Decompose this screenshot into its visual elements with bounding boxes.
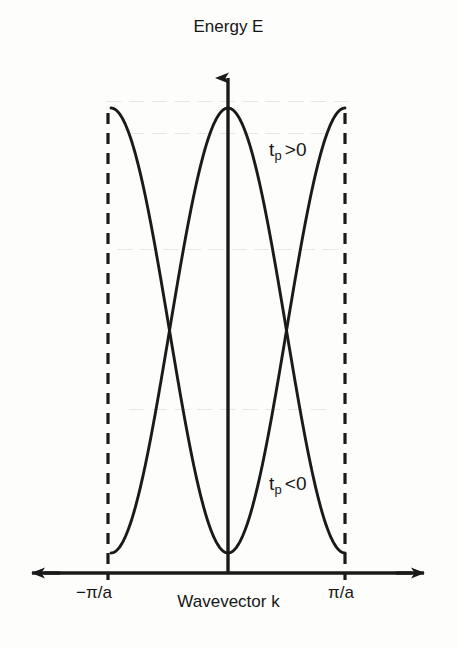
annotation-lower-relation: <0 bbox=[285, 473, 307, 494]
x-tick-label-pi-over-a: π/a bbox=[328, 583, 354, 603]
x-axis-title: Wavevector k bbox=[0, 592, 457, 612]
annotation-upper-relation: >0 bbox=[285, 139, 307, 160]
x-tick-label-negative-pi-over-a: −π/a bbox=[76, 583, 112, 603]
plot-canvas bbox=[0, 0, 457, 648]
annotation-upper-band: tp>0 bbox=[269, 139, 307, 163]
annotation-lower-band: tp<0 bbox=[269, 473, 307, 497]
y-axis-title: Energy E bbox=[0, 17, 457, 37]
annotation-upper-subscript: p bbox=[275, 148, 282, 163]
annotation-lower-subscript: p bbox=[275, 482, 282, 497]
band-structure-figure: — — — — — — — — — — — — — — — — — — — — … bbox=[0, 0, 457, 648]
